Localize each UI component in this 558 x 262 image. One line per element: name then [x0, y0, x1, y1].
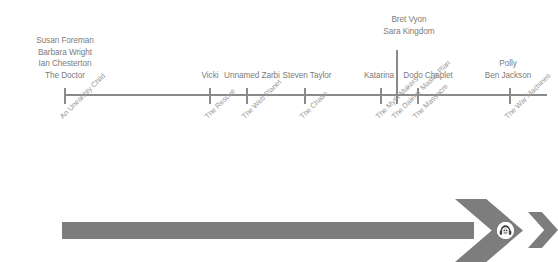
serial-label: The Rescue	[203, 86, 237, 120]
character-name: Susan Foreman	[36, 35, 94, 47]
character-name: Dodo Chaplet	[403, 70, 452, 82]
character-label-group: Dodo Chaplet	[403, 70, 452, 82]
event-tick	[509, 88, 511, 104]
character-name: Ben Jackson	[485, 70, 531, 82]
companion-face-icon	[497, 222, 514, 239]
event-tick	[64, 88, 66, 104]
character-name: The Doctor	[36, 70, 94, 82]
character-name: Katarina	[364, 70, 394, 82]
character-label-group: PollyBen Jackson	[485, 58, 531, 81]
timeline-axis	[65, 94, 547, 96]
event-tick	[304, 88, 306, 104]
character-label-group: Unnamed Zarbi	[224, 70, 280, 82]
event-tick	[396, 88, 398, 104]
character-name: Barbara Wright	[36, 47, 94, 59]
event-tick	[417, 88, 419, 104]
character-label-group: Katarina	[364, 70, 394, 82]
event-tick	[246, 88, 248, 104]
character-name: Ian Chesterton	[36, 58, 94, 70]
event-tick	[380, 88, 382, 104]
arrow-head-secondary	[528, 212, 558, 248]
character-label-group: Susan ForemanBarbara WrightIan Chesterto…	[36, 35, 94, 81]
character-name: Sara Kingdom	[383, 26, 434, 38]
character-name: Steven Taylor	[283, 70, 332, 82]
character-label-group: Steven Taylor	[283, 70, 332, 82]
character-name: Unnamed Zarbi	[224, 70, 280, 82]
character-name: Bret Vyon	[383, 14, 434, 26]
character-label-group: Bret VyonSara Kingdom	[383, 14, 434, 37]
event-tick	[209, 88, 211, 104]
character-name: Polly	[485, 58, 531, 70]
progress-arrow-bar	[62, 222, 474, 239]
character-label-group: Vicki	[202, 70, 219, 82]
character-name: Vicki	[202, 70, 219, 82]
